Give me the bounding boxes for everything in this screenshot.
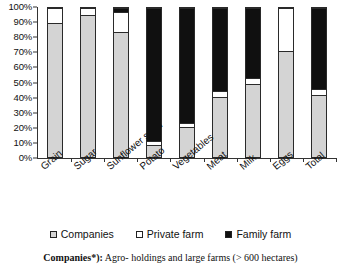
stacked-bar[interactable] bbox=[245, 7, 261, 158]
bar-group bbox=[71, 7, 104, 158]
bar-segment-family-farm[interactable] bbox=[312, 8, 326, 89]
legend-item[interactable]: Companies bbox=[50, 229, 114, 240]
bar-group bbox=[270, 7, 303, 158]
y-axis-tick-mark bbox=[33, 127, 37, 128]
footnote-rest: Agro- holdings and large farms (> 600 he… bbox=[103, 252, 298, 263]
chart-legend: CompaniesPrivate farmFamily farm bbox=[0, 226, 341, 242]
stacked-bar[interactable] bbox=[212, 7, 228, 158]
bar-segment-private-farm[interactable] bbox=[114, 12, 128, 31]
bar-segment-family-farm[interactable] bbox=[246, 8, 260, 78]
legend-item[interactable]: Private farm bbox=[136, 229, 204, 240]
y-axis-tick-mark bbox=[33, 7, 37, 8]
bar-segment-family-farm[interactable] bbox=[213, 8, 227, 91]
bar-segment-companies[interactable] bbox=[213, 97, 227, 157]
bar-group bbox=[38, 7, 71, 158]
y-axis-labels: 0%10%20%30%40%50%60%70%80%90%100% bbox=[0, 0, 32, 168]
y-axis-tick-mark bbox=[33, 52, 37, 53]
bar-group bbox=[170, 7, 203, 158]
bar-segment-private-farm[interactable] bbox=[81, 8, 95, 15]
bar-segment-companies[interactable] bbox=[114, 32, 128, 157]
stacked-bar[interactable] bbox=[47, 7, 63, 158]
family-farm-swatch-icon bbox=[225, 231, 232, 238]
y-axis-tick-label: 50% bbox=[0, 78, 32, 88]
bar-segment-private-farm[interactable] bbox=[279, 8, 293, 51]
footnote-bold-prefix: Companies*): bbox=[43, 252, 102, 263]
stacked-bar[interactable] bbox=[278, 7, 294, 158]
legend-item[interactable]: Family farm bbox=[225, 229, 291, 240]
bars-container bbox=[38, 7, 336, 158]
bar-segment-companies[interactable] bbox=[246, 84, 260, 157]
y-axis-tick-mark bbox=[33, 158, 37, 159]
y-axis-tick-mark bbox=[33, 67, 37, 68]
y-axis-tick-mark bbox=[33, 97, 37, 98]
bar-segment-companies[interactable] bbox=[48, 23, 62, 157]
bar-segment-family-farm[interactable] bbox=[180, 8, 194, 123]
y-axis-tick-mark bbox=[33, 37, 37, 38]
y-axis-tick-mark bbox=[33, 82, 37, 83]
x-axis-labels: GrainSugarSunflower seedPotatoVegetables… bbox=[0, 160, 341, 218]
bar-segment-companies[interactable] bbox=[312, 95, 326, 157]
stacked-bar[interactable] bbox=[311, 7, 327, 158]
bar-segment-companies[interactable] bbox=[81, 15, 95, 157]
bar-group bbox=[303, 7, 336, 158]
bar-segment-companies[interactable] bbox=[279, 51, 293, 157]
stacked-bar[interactable] bbox=[80, 7, 96, 158]
legend-label: Private farm bbox=[147, 229, 204, 240]
stacked-bar[interactable] bbox=[179, 7, 195, 158]
y-axis-tick-label: 40% bbox=[0, 93, 32, 103]
y-axis-tick-mark bbox=[33, 142, 37, 143]
plot-area: 0%10%20%30%40%50%60%70%80%90%100% bbox=[0, 0, 341, 168]
y-axis-tick-mark bbox=[33, 22, 37, 23]
y-axis-tick-label: 100% bbox=[0, 2, 32, 12]
y-axis-tick-label: 80% bbox=[0, 32, 32, 42]
bar-group bbox=[237, 7, 270, 158]
private-farm-swatch-icon bbox=[136, 231, 143, 238]
legend-label: Companies bbox=[61, 229, 114, 240]
y-axis-tick-label: 90% bbox=[0, 17, 32, 27]
y-axis-tick-label: 10% bbox=[0, 138, 32, 148]
bar-group bbox=[104, 7, 137, 158]
chart-footnote: Companies*): Agro- holdings and large fa… bbox=[0, 252, 341, 264]
y-axis-tick-mark bbox=[33, 112, 37, 113]
y-axis-tick-label: 60% bbox=[0, 63, 32, 73]
y-axis-tick-label: 20% bbox=[0, 123, 32, 133]
stacked-bar-chart: 0%10%20%30%40%50%60%70%80%90%100% GrainS… bbox=[0, 0, 341, 271]
companies-swatch-icon bbox=[50, 231, 57, 238]
bar-segment-private-farm[interactable] bbox=[48, 8, 62, 23]
y-axis-tick-label: 70% bbox=[0, 48, 32, 58]
legend-label: Family farm bbox=[236, 229, 291, 240]
stacked-bar[interactable] bbox=[113, 7, 129, 158]
y-axis-tick-label: 30% bbox=[0, 108, 32, 118]
